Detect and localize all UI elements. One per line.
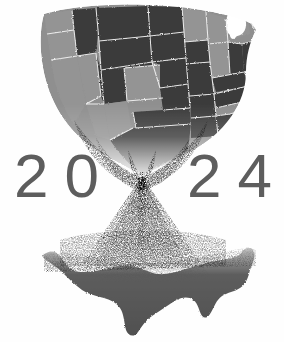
state-IN	[228, 42, 244, 74]
state-KS	[160, 84, 190, 110]
state-ME	[276, 0, 284, 18]
state-NH	[272, 4, 280, 16]
state-SD	[150, 32, 186, 62]
state-WV	[258, 36, 272, 62]
state-FL	[246, 126, 264, 148]
state-MS	[216, 114, 232, 136]
state-AR	[190, 94, 216, 118]
state-PA	[258, 30, 280, 52]
state-GA	[244, 104, 260, 132]
state-CO	[124, 65, 163, 101]
hourglass-map-artwork	[0, 0, 284, 342]
state-NY	[250, 10, 282, 38]
state-MO	[186, 62, 214, 96]
state-NJ-DE-MD	[278, 44, 284, 58]
state-VA	[260, 54, 280, 80]
upper-map-group	[41, 0, 284, 176]
state-OR	[47, 30, 77, 60]
state-MN	[182, 7, 208, 42]
state-VT	[266, 6, 276, 18]
state-WY	[99, 36, 152, 70]
state-SC	[250, 94, 268, 116]
state-MT	[96, 6, 150, 41]
stray-grains	[60, 230, 226, 266]
state-OH	[242, 40, 260, 72]
illustration-canvas: 2 0 2 4 2024 United States election hour…	[0, 0, 284, 342]
state-IA	[184, 40, 210, 64]
state-MA	[274, 16, 284, 26]
state-ND	[148, 6, 184, 36]
state-NC	[248, 78, 274, 100]
